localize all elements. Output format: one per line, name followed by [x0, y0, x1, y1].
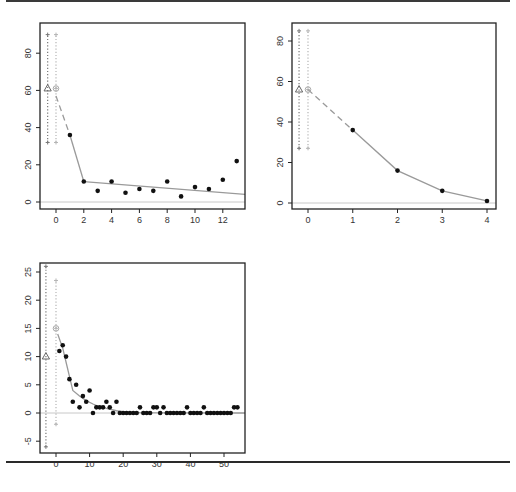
data-point [165, 179, 170, 184]
triangle-interval-cap-icon [46, 33, 50, 37]
data-point [57, 349, 62, 354]
data-point [185, 405, 190, 410]
x-tick-label: 0 [305, 215, 310, 225]
x-tick-label: 8 [165, 215, 170, 225]
data-point [234, 159, 239, 164]
plot-area [40, 33, 248, 202]
data-point [137, 187, 142, 192]
triangle-marker-icon [295, 86, 302, 92]
data-point [395, 168, 400, 173]
y-tick-label: -5 [23, 437, 33, 445]
fit-line [84, 182, 248, 195]
x-tick-label: 0 [53, 215, 58, 225]
data-point [221, 177, 226, 182]
data-point [123, 190, 128, 195]
circle-interval-cap-icon [306, 146, 310, 150]
y-tick-label: 60 [23, 85, 33, 95]
data-point [138, 405, 143, 410]
plot-3: 01020304050-50510152025 [23, 263, 246, 469]
data-point [193, 185, 198, 190]
data-point [114, 399, 119, 404]
data-point [74, 383, 79, 388]
chart-canvas: 024681012020406080 01234020406080 010203… [0, 0, 516, 492]
y-tick-label: 5 [23, 382, 33, 387]
data-point [235, 405, 240, 410]
data-point [181, 411, 186, 416]
data-point [440, 189, 445, 194]
data-point [91, 411, 96, 416]
data-point [151, 189, 156, 194]
data-point [84, 399, 89, 404]
y-tick-label: 20 [23, 160, 33, 170]
fit-curve [70, 135, 84, 182]
x-tick-label: 6 [137, 215, 142, 225]
data-point [134, 411, 139, 416]
triangle-interval-cap-icon [297, 29, 301, 33]
circle-interval-cap-icon [54, 422, 58, 426]
data-point [179, 194, 184, 199]
circle-interval-cap-icon [54, 278, 58, 282]
data-point [87, 388, 92, 393]
plot-area [292, 29, 496, 203]
triangle-marker-icon [42, 353, 49, 359]
plot-frame [292, 23, 496, 209]
data-point [228, 411, 233, 416]
connecting-line [353, 130, 487, 201]
data-point [64, 354, 69, 359]
y-tick-label: 40 [23, 123, 33, 133]
data-point [207, 187, 212, 192]
y-tick-label: 80 [23, 48, 33, 58]
bottom-rule [6, 461, 510, 463]
y-tick-label: 80 [275, 36, 285, 46]
data-point [107, 405, 112, 410]
data-point [111, 411, 116, 416]
circle-marker-cross-icon [54, 87, 58, 91]
data-point [68, 133, 73, 138]
data-point [95, 189, 100, 194]
data-point [485, 199, 490, 204]
circle-marker-cross-icon [54, 326, 58, 330]
x-tick-label: 2 [395, 215, 400, 225]
circle-interval-cap-icon [54, 140, 58, 144]
x-tick-label: 4 [109, 215, 114, 225]
data-point [82, 179, 87, 184]
data-point [60, 343, 65, 348]
x-tick-label: 1 [350, 215, 355, 225]
y-tick-label: 25 [23, 267, 33, 277]
plot-frame [40, 263, 245, 453]
circle-interval-cap-icon [54, 33, 58, 37]
data-point [202, 405, 207, 410]
y-tick-label: 0 [275, 200, 285, 205]
plot-1: 024681012020406080 [23, 23, 248, 225]
triangle-interval-cap-icon [44, 445, 48, 449]
y-tick-label: 40 [275, 117, 285, 127]
x-tick-label: 4 [484, 215, 489, 225]
plot-area [40, 264, 246, 448]
y-tick-label: 20 [275, 157, 285, 167]
triangle-interval-cap-icon [297, 146, 301, 150]
dashed-extrapolation-line [308, 90, 353, 131]
y-tick-label: 10 [23, 352, 33, 362]
data-point [104, 399, 109, 404]
data-point [148, 411, 153, 416]
data-point [198, 411, 203, 416]
data-point [77, 405, 82, 410]
triangle-interval-cap-icon [44, 264, 48, 268]
data-point [158, 411, 163, 416]
x-tick-label: 3 [440, 215, 445, 225]
data-point [155, 405, 160, 410]
x-tick-label: 10 [190, 215, 200, 225]
data-point [71, 399, 76, 404]
y-tick-label: 60 [275, 76, 285, 86]
data-point [350, 128, 355, 133]
data-point [109, 179, 114, 184]
triangle-interval-cap-icon [46, 140, 50, 144]
data-point [67, 377, 72, 382]
data-point [161, 405, 166, 410]
x-tick-label: 12 [218, 215, 228, 225]
data-point [81, 394, 86, 399]
y-tick-label: 0 [23, 199, 33, 204]
y-tick-label: 0 [23, 410, 33, 415]
x-tick-label: 2 [81, 215, 86, 225]
y-tick-label: 20 [23, 295, 33, 305]
